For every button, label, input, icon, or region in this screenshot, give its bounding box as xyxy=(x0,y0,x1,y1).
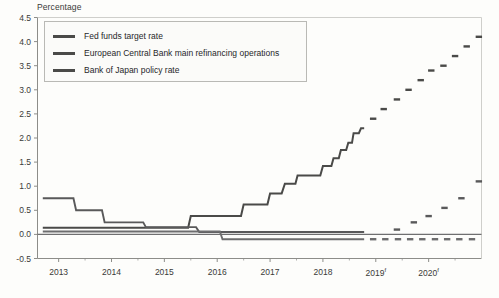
legend-label-fed-funds: Fed funds target rate xyxy=(84,32,163,41)
legend-item-ecb: European Central Bank main refinancing o… xyxy=(53,45,298,62)
legend-label-ecb: European Central Bank main refinancing o… xyxy=(84,49,279,58)
forecast-marker: f xyxy=(437,267,439,273)
chart-legend: Fed funds target rate European Central B… xyxy=(44,21,307,82)
x-axis-tick-label: 2016 xyxy=(191,267,243,277)
x-axis-tick-label: 2020f xyxy=(403,267,455,278)
y-axis-tick-label: 2.5 xyxy=(0,109,31,119)
x-axis-tick-label: 2014 xyxy=(86,267,138,277)
x-axis-tick-label: 2018 xyxy=(297,267,349,277)
y-axis-tick-label: 2.0 xyxy=(0,133,31,143)
legend-swatch-boj xyxy=(53,69,75,72)
y-axis-tick-label: 0.5 xyxy=(0,205,31,215)
legend-item-boj: Bank of Japan policy rate xyxy=(53,62,298,79)
x-axis-tick-label: 2013 xyxy=(33,267,85,277)
y-axis-tick-label: 4.0 xyxy=(0,37,31,47)
legend-swatch-fed-funds xyxy=(53,35,75,38)
x-axis-tick-label: 2015 xyxy=(138,267,190,277)
y-axis-tick-label: 3.0 xyxy=(0,85,31,95)
y-axis-tick-label: -0.5 xyxy=(0,254,31,264)
y-axis-tick-label: 1.0 xyxy=(0,181,31,191)
y-axis-tick-label: 0.0 xyxy=(0,229,31,239)
x-axis-tick-label: 2019f xyxy=(350,267,402,278)
forecast-marker: f xyxy=(384,267,386,273)
x-axis-tick-label: 2017 xyxy=(244,267,296,277)
y-axis-tick-label: 4.5 xyxy=(0,13,31,23)
legend-item-fed-funds: Fed funds target rate xyxy=(53,28,298,45)
legend-label-boj: Bank of Japan policy rate xyxy=(84,66,179,75)
y-axis-tick-label: 1.5 xyxy=(0,157,31,167)
legend-swatch-ecb xyxy=(53,52,75,55)
y-axis-tick-label: 3.5 xyxy=(0,61,31,71)
interest-rate-chart: Percentage Fed funds target rate Europea… xyxy=(0,0,499,298)
